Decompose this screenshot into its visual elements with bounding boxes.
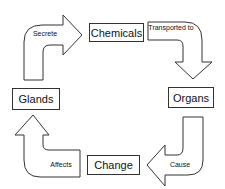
edge-label-secrete: Secrete (30, 30, 60, 38)
arrow-secrete (24, 15, 82, 80)
node-chemicals: Chemicals (89, 23, 144, 42)
edge-label-transported: Transported to (147, 24, 195, 32)
node-change: Change (87, 155, 140, 175)
edge-label-affects: Affects (44, 161, 78, 169)
node-organs: Organs (168, 87, 214, 108)
arrow-cause (147, 117, 203, 186)
node-chemicals-label: Chemicals (91, 27, 142, 39)
node-organs-label: Organs (173, 92, 209, 104)
edge-label-cause: Cause (166, 161, 194, 169)
node-change-label: Change (94, 159, 133, 171)
node-glands-label: Glands (19, 93, 54, 105)
node-glands: Glands (12, 88, 60, 110)
